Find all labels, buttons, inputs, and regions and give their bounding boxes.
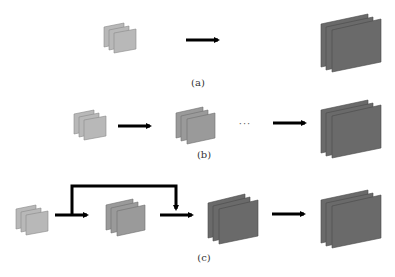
panel-b-output-block [321, 100, 381, 158]
panel-b-middle-block [176, 107, 215, 144]
panel-c-output-block [321, 190, 381, 248]
panel-b-label: (b) [197, 149, 211, 160]
diagram-canvas [0, 0, 395, 277]
panel-a-input-block [104, 23, 136, 53]
panel-a-label: (a) [191, 77, 205, 88]
panel-c-middle-block [106, 199, 145, 236]
panel-b-ellipsis: ··· [239, 118, 252, 129]
panel-a-output-block [321, 14, 381, 72]
panel-b-input-block [74, 110, 106, 140]
panel-c-label: (c) [197, 252, 210, 263]
panel-c-hidden-block [208, 194, 258, 244]
panel-c-input-block [16, 205, 48, 235]
